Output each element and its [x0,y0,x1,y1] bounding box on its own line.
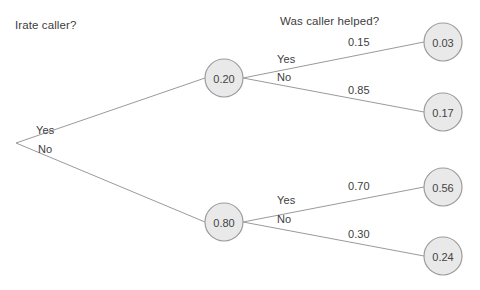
node-value: 0.20 [213,73,234,85]
node-value: 0.03 [432,37,453,49]
probability-label-bottom-no: 0.30 [348,228,370,240]
branch-label-bottom-no: No [277,213,291,225]
node-value: 0.17 [432,107,453,119]
tree-graphics: 0.20 0.80 0.03 0.17 0.56 0.24 [0,0,480,290]
branch-label-bottom-yes: Yes [277,194,295,206]
stage-header-was-caller-helped: Was caller helped? [280,15,379,27]
stage-header-irate-caller: Irate caller? [15,19,76,31]
branch-label-top-yes: Yes [277,53,295,65]
probability-label-bottom-yes: 0.70 [348,180,370,192]
branch-label-root-no: No [38,143,52,155]
node-value: 0.24 [432,251,453,263]
edge-bottom-yes [243,187,424,222]
edge-bottom-no [243,222,424,256]
node-value: 0.80 [213,217,234,229]
node-value: 0.56 [432,182,453,194]
branch-label-top-no: No [277,71,291,83]
node-0.20[interactable]: 0.20 [205,59,243,97]
node-0.80[interactable]: 0.80 [205,203,243,241]
node-0.56[interactable]: 0.56 [424,168,462,206]
node-0.03[interactable]: 0.03 [424,23,462,61]
probability-label-top-yes: 0.15 [348,36,370,48]
probability-label-top-no: 0.85 [348,84,370,96]
edge-top-yes [243,42,424,78]
probability-tree-diagram: 0.20 0.80 0.03 0.17 0.56 0.24 Irate call… [0,0,480,290]
edge-top-no [243,78,424,112]
branch-label-root-yes: Yes [36,124,54,136]
node-0.24[interactable]: 0.24 [424,237,462,275]
node-0.17[interactable]: 0.17 [424,93,462,131]
